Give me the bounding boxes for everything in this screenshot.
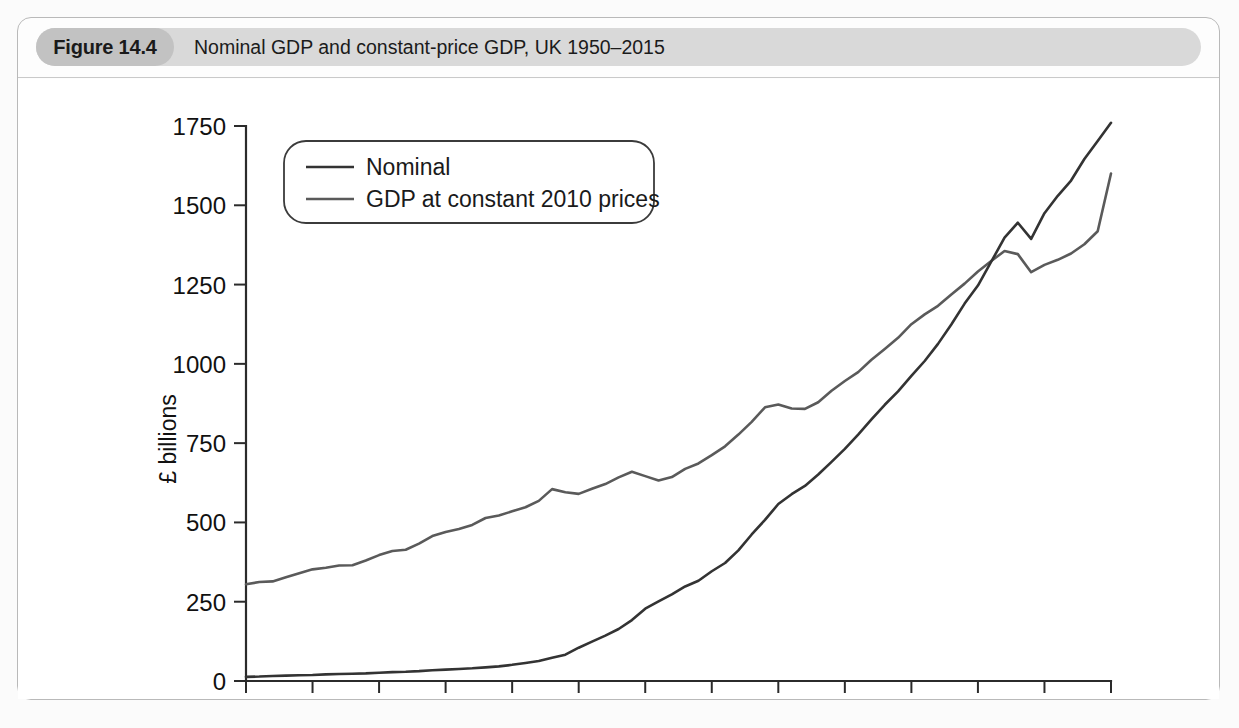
series-line-constant-price — [246, 174, 1111, 585]
legend-label-constant-price: GDP at constant 2010 prices — [366, 186, 660, 212]
gdp-line-chart: 02505007501000125015001750 1950195519601… — [18, 79, 1218, 699]
y-tick-label: 1500 — [173, 192, 226, 219]
figure-header: Figure 14.4 Nominal GDP and constant-pri… — [18, 18, 1219, 78]
legend-label-nominal: Nominal — [366, 154, 450, 180]
y-tick-label: 250 — [186, 589, 226, 616]
figure-title: Nominal GDP and constant-price GDP, UK 1… — [194, 28, 665, 66]
figure-number: Figure 14.4 — [36, 28, 174, 66]
x-axis-ticks: 1950195519601965197019751980198519901995… — [219, 681, 1137, 699]
chart-legend: Nominal GDP at constant 2010 prices — [284, 141, 660, 223]
y-tick-label: 1750 — [173, 113, 226, 140]
y-tick-label: 1000 — [173, 351, 226, 378]
y-axis-title: £ billions — [155, 394, 181, 484]
y-axis-ticks: 02505007501000125015001750 — [173, 113, 246, 695]
plot-area: 02505007501000125015001750 1950195519601… — [18, 79, 1219, 699]
y-tick-label: 500 — [186, 509, 226, 536]
y-tick-label: 0 — [213, 668, 226, 695]
figure-card: Figure 14.4 Nominal GDP and constant-pri… — [17, 17, 1220, 700]
y-tick-label: 1250 — [173, 272, 226, 299]
y-tick-label: 750 — [186, 430, 226, 457]
figure-page: Figure 14.4 Nominal GDP and constant-pri… — [0, 0, 1239, 728]
